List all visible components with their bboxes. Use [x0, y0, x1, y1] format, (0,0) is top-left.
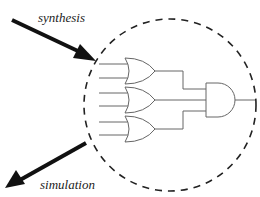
synthesis-arrow-icon	[12, 20, 96, 61]
input-wires	[99, 64, 128, 135]
synthesis-label: synthesis	[38, 10, 85, 26]
or-gate-top	[125, 58, 155, 84]
or-gate-bottom	[125, 116, 155, 142]
internal-wires	[155, 71, 206, 129]
circuit-diagram	[0, 0, 260, 197]
and-gate	[206, 83, 235, 117]
or-gate-middle	[125, 87, 155, 113]
simulation-label: simulation	[40, 177, 95, 193]
